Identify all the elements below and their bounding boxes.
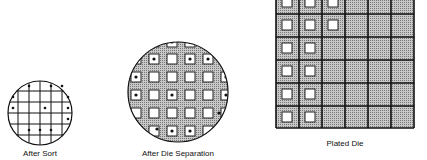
wafer-after-die-separation bbox=[126, 37, 231, 144]
label-plated-die: Plated Die bbox=[305, 139, 385, 148]
plated-die-grid bbox=[276, 0, 414, 128]
label-after-die-separation: After Die Separation bbox=[123, 149, 233, 158]
wafer-after-sort bbox=[4, 80, 76, 146]
label-after-sort: After Sort bbox=[5, 149, 75, 158]
process-diagram bbox=[0, 0, 427, 160]
